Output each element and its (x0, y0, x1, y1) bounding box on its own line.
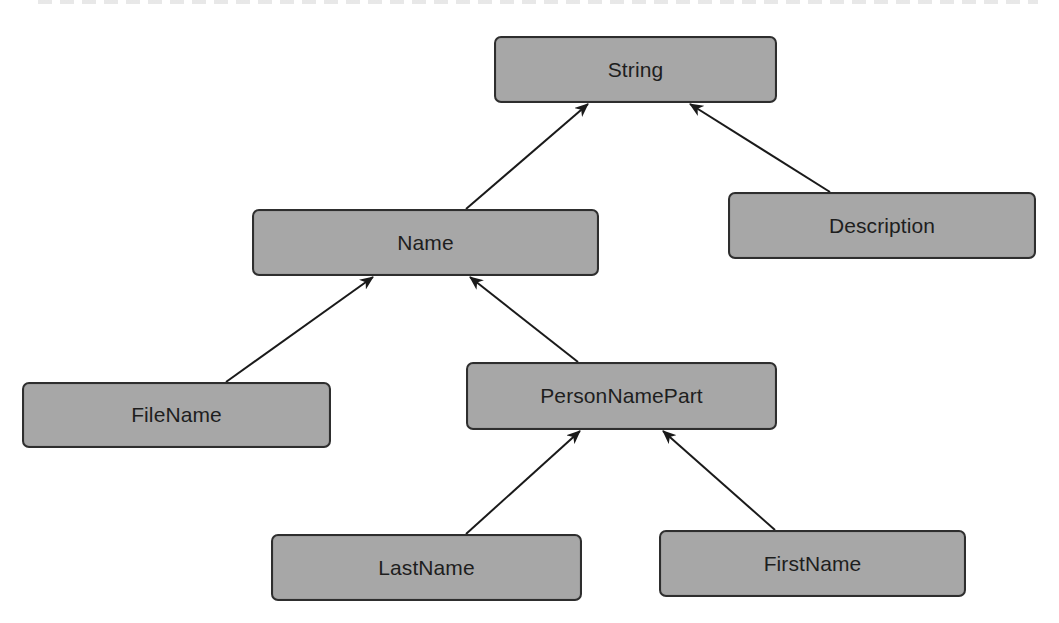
node-label: Description (829, 214, 935, 238)
node-personnamepart[interactable]: PersonNamePart (466, 362, 777, 430)
edge-personnamepart-to-name (470, 277, 578, 362)
node-firstname[interactable]: FirstName (659, 530, 966, 597)
edge-name-to-string (466, 104, 588, 209)
edge-firstname-to-personnamepart (663, 431, 775, 530)
edge-lastname-to-personnamepart (466, 431, 580, 534)
node-label: FileName (131, 403, 222, 427)
node-label: String (608, 58, 663, 82)
node-label: PersonNamePart (540, 384, 702, 408)
node-label: FirstName (764, 552, 862, 576)
node-label: LastName (378, 556, 475, 580)
node-string[interactable]: String (494, 36, 777, 103)
node-lastname[interactable]: LastName (271, 534, 582, 601)
edge-filename-to-name (226, 277, 373, 382)
node-description[interactable]: Description (728, 192, 1036, 259)
node-name[interactable]: Name (252, 209, 599, 276)
node-label: Name (397, 231, 453, 255)
node-filename[interactable]: FileName (22, 382, 331, 448)
edge-description-to-string (690, 104, 830, 192)
